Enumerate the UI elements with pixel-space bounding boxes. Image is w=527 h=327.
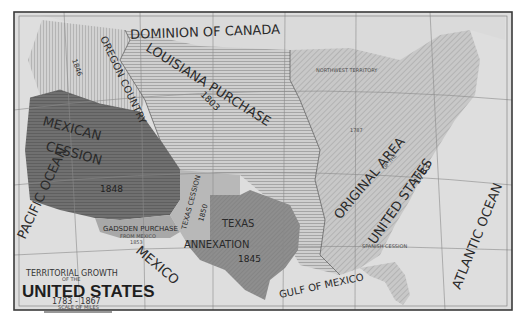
scale-label: SCALE OF MILES (58, 304, 99, 310)
label-texas: TEXAS (221, 218, 254, 229)
year-northwest: 1787 (350, 127, 363, 133)
year-mexican: 1848 (100, 184, 123, 194)
year-texas: 1845 (238, 254, 261, 264)
label-spanish: SPANISH CESSION (362, 243, 407, 249)
territorial-growth-map: DOMINION OF CANADA LOUISIANA PURCHASE 18… (0, 0, 527, 327)
label-annexation: ANNEXATION (184, 239, 249, 250)
label-northwest: NORTHWEST TERRITORY (316, 67, 378, 73)
label-gadsden: GADSDEN PURCHASE (103, 225, 178, 233)
